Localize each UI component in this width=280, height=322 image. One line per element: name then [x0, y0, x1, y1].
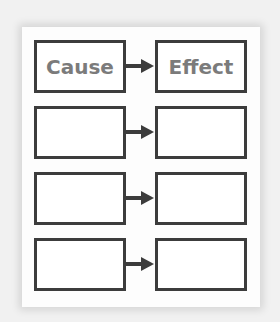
arrow-right-icon — [126, 191, 154, 205]
effect-label: Effect — [169, 55, 234, 79]
cause-box-3 — [34, 172, 126, 225]
cause-box-2 — [34, 106, 126, 159]
arrow-right-icon — [126, 125, 154, 139]
effect-box-4 — [155, 238, 247, 291]
effect-box-3 — [155, 172, 247, 225]
cause-label: Cause — [46, 55, 114, 79]
cause-box-1: Cause — [34, 40, 126, 93]
effect-box-2 — [155, 106, 247, 159]
arrow-right-icon — [126, 59, 154, 73]
arrow-right-icon — [126, 257, 154, 271]
cause-box-4 — [34, 238, 126, 291]
organizer-card: Cause Effect — [22, 27, 260, 307]
effect-box-1: Effect — [155, 40, 247, 93]
